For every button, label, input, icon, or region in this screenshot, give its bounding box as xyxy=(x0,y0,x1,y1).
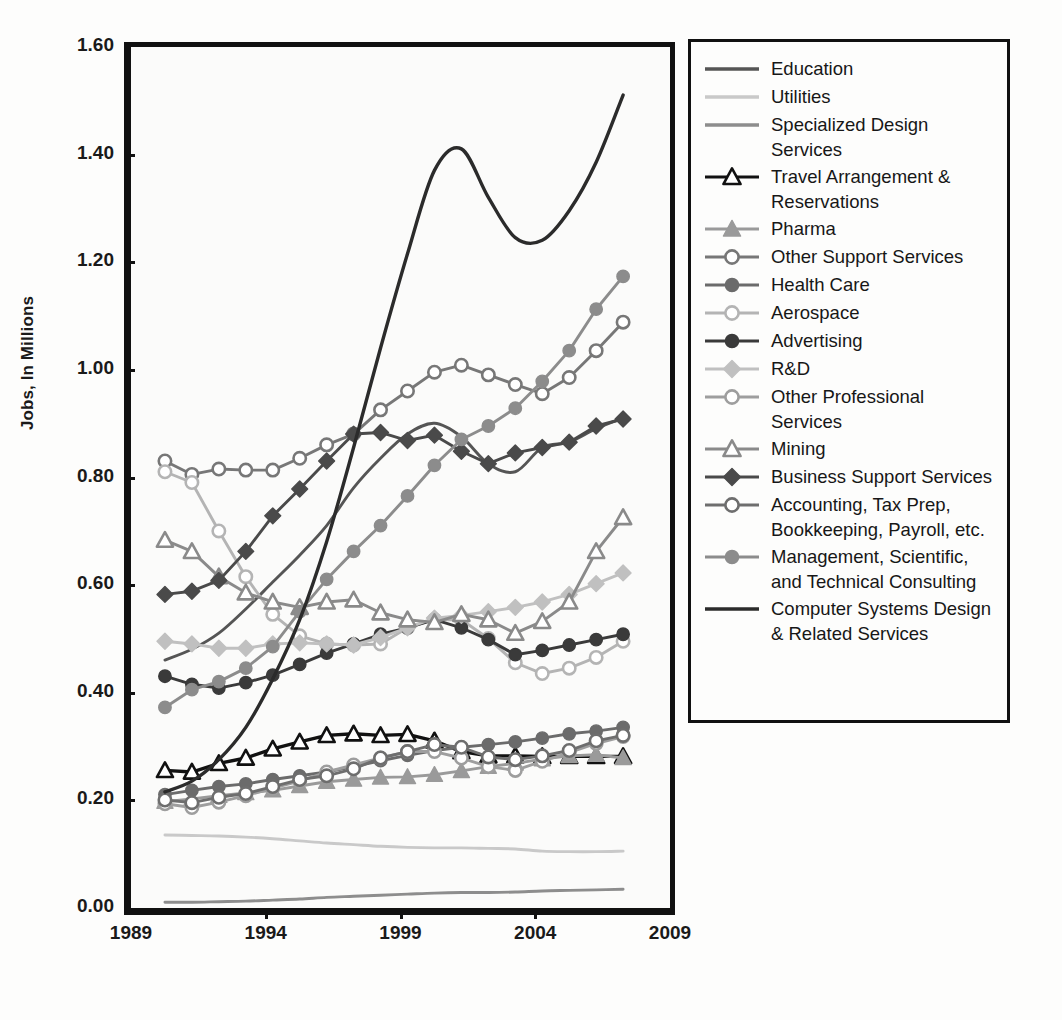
chart-figure: Jobs, In Millions 0.000.200.400.600.801.… xyxy=(0,0,1062,1020)
y-tick-mark xyxy=(124,477,135,480)
data-point xyxy=(590,651,602,663)
legend-label: Other Professional Services xyxy=(765,384,997,434)
data-point xyxy=(561,434,577,450)
legend-item[interactable]: Utilities xyxy=(703,84,997,110)
data-point xyxy=(507,445,523,461)
data-point xyxy=(428,366,440,378)
x-tick-mark xyxy=(534,908,537,919)
legend-item[interactable]: R&D xyxy=(703,356,997,382)
series-2 xyxy=(165,889,623,902)
data-point xyxy=(267,464,279,476)
data-point xyxy=(536,732,548,744)
data-point xyxy=(455,359,467,371)
data-point xyxy=(401,490,413,502)
x-tick-label: 2004 xyxy=(490,922,580,944)
data-point xyxy=(536,667,548,679)
series-canvas xyxy=(131,47,670,908)
data-point xyxy=(157,586,173,602)
chart-legend: EducationUtilitiesSpecialized Design Ser… xyxy=(688,39,1010,723)
legend-item[interactable]: Other Support Services xyxy=(703,244,997,270)
series-line xyxy=(165,472,623,674)
data-point xyxy=(615,411,631,427)
data-point xyxy=(482,633,494,645)
series-line xyxy=(165,889,623,902)
data-point xyxy=(536,750,548,762)
data-point xyxy=(213,525,225,537)
legend-item[interactable]: Pharma xyxy=(703,216,997,242)
legend-swatch-diamond-icon xyxy=(703,464,765,490)
series-line xyxy=(165,418,623,660)
series-line xyxy=(165,276,623,707)
series-13 xyxy=(159,729,630,809)
legend-swatch-none-icon xyxy=(703,596,765,622)
legend-item[interactable]: Education xyxy=(703,56,997,82)
data-point xyxy=(482,751,494,763)
x-tick-mark xyxy=(400,908,403,919)
legend-item[interactable]: Other Professional Services xyxy=(703,384,997,434)
data-point xyxy=(347,763,359,775)
legend-item[interactable]: Specialized Design Services xyxy=(703,112,997,162)
legend-item[interactable]: Health Care xyxy=(703,272,997,298)
legend-item[interactable]: Accounting, Tax Prep, Bookkeeping, Payro… xyxy=(703,492,997,542)
legend-label: Other Support Services xyxy=(765,244,963,269)
data-point xyxy=(267,780,279,792)
y-tick-mark xyxy=(124,261,135,264)
data-point xyxy=(455,433,467,445)
data-point xyxy=(320,573,332,585)
legend-item[interactable]: Advertising xyxy=(703,328,997,354)
legend-label: Advertising xyxy=(765,328,863,353)
data-point xyxy=(213,463,225,475)
legend-item[interactable]: Management, Scientific, and Technical Co… xyxy=(703,544,997,594)
data-point xyxy=(294,452,306,464)
data-point xyxy=(267,608,279,620)
y-axis-tick-labels: 0.000.200.400.600.801.001.201.401.60 xyxy=(32,0,114,1020)
data-point xyxy=(507,625,523,640)
legend-swatch-circle-filled-icon xyxy=(703,328,765,354)
x-tick-mark xyxy=(265,908,268,919)
data-point xyxy=(238,640,254,656)
legend-item[interactable]: Aerospace xyxy=(703,300,997,326)
data-point xyxy=(157,633,173,649)
data-point xyxy=(482,369,494,381)
data-point xyxy=(590,633,602,645)
data-point xyxy=(186,796,198,808)
y-tick-label: 1.60 xyxy=(44,34,114,56)
data-point xyxy=(240,662,252,674)
y-tick-label: 1.20 xyxy=(44,249,114,271)
data-point xyxy=(186,683,198,695)
legend-swatch-circle-open-icon xyxy=(703,492,765,518)
data-point xyxy=(563,639,575,651)
data-point xyxy=(590,735,602,747)
legend-label: Management, Scientific, and Technical Co… xyxy=(765,544,997,594)
data-point xyxy=(507,599,523,615)
data-point xyxy=(563,344,575,356)
legend-label: Travel Arrangement & Reservations xyxy=(765,164,997,214)
series-line xyxy=(165,620,623,688)
legend-item[interactable]: Mining xyxy=(703,436,997,462)
y-tick-mark xyxy=(124,799,135,802)
legend-label: Utilities xyxy=(765,84,831,109)
data-point xyxy=(294,773,306,785)
y-tick-label: 1.40 xyxy=(44,142,114,164)
legend-item[interactable]: Computer Systems Design & Related Servic… xyxy=(703,596,997,646)
data-point xyxy=(211,640,227,656)
data-point xyxy=(240,464,252,476)
series-0 xyxy=(165,418,623,660)
data-point xyxy=(615,509,631,524)
data-point xyxy=(184,583,200,599)
data-point xyxy=(320,439,332,451)
data-point xyxy=(563,371,575,383)
legend-swatch-triangle-open-icon xyxy=(703,164,765,190)
data-point xyxy=(536,388,548,400)
data-point xyxy=(347,545,359,557)
legend-swatch-none-icon xyxy=(703,84,765,110)
legend-label: Accounting, Tax Prep, Bookkeeping, Payro… xyxy=(765,492,997,542)
legend-swatch-circle-open-icon xyxy=(703,384,765,410)
data-point xyxy=(401,745,413,757)
legend-item[interactable]: Travel Arrangement & Reservations xyxy=(703,164,997,214)
data-point xyxy=(213,791,225,803)
data-point xyxy=(157,532,173,547)
data-point xyxy=(294,658,306,670)
legend-item[interactable]: Business Support Services xyxy=(703,464,997,490)
data-point xyxy=(159,701,171,713)
